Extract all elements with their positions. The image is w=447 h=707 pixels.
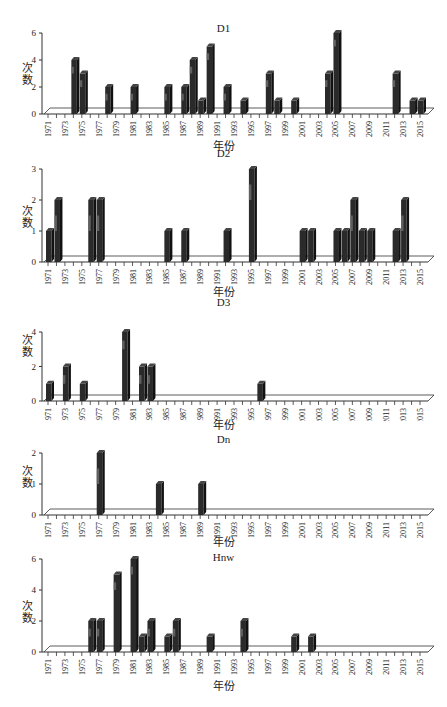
y-tick-label: 1 bbox=[32, 226, 37, 236]
y-tick-label: 0 bbox=[32, 109, 37, 119]
bar bbox=[266, 71, 274, 115]
x-tick-label: 1983 bbox=[145, 121, 154, 137]
bar bbox=[333, 30, 341, 114]
x-tick-label: 1979 bbox=[112, 121, 121, 137]
x-tick-label: 1979 bbox=[112, 659, 121, 675]
bar bbox=[173, 618, 181, 652]
x-tick-label: 2011 bbox=[382, 659, 391, 675]
bar-chart-hnw: 0246197119731975197719791981198319851987… bbox=[0, 545, 447, 695]
bar bbox=[164, 228, 172, 262]
x-tick-label: 1985 bbox=[162, 121, 171, 137]
y-tick-label: 0 bbox=[32, 647, 37, 657]
bar bbox=[139, 634, 147, 653]
y-tick-label: 2 bbox=[32, 616, 37, 626]
bar bbox=[46, 228, 54, 262]
bar bbox=[224, 84, 232, 114]
x-tick-label: 1973 bbox=[61, 121, 70, 137]
chart-panel-d1: D1 次数 0246197119731975197719791981198319… bbox=[0, 0, 447, 145]
x-tick-label: 1985 bbox=[162, 659, 171, 675]
x-tick-label: 1971 bbox=[44, 659, 53, 675]
x-tick-label: 1997 bbox=[264, 659, 273, 675]
chart-panel-dn: Dn 次数 0121971197319751977197919811983198… bbox=[0, 430, 447, 550]
x-tick-label: 2005 bbox=[331, 121, 340, 137]
bar bbox=[257, 381, 265, 401]
y-tick-label: 0 bbox=[32, 510, 37, 520]
x-tick-label: 1981 bbox=[129, 659, 138, 675]
x-tick-label: 2003 bbox=[315, 659, 324, 675]
bar bbox=[249, 166, 257, 262]
bar bbox=[198, 481, 206, 515]
bar bbox=[393, 228, 401, 262]
bar bbox=[207, 44, 215, 115]
bar bbox=[291, 634, 299, 653]
bar bbox=[181, 228, 189, 262]
bar-chart-d1: 0246197119731975197719791981198319851987… bbox=[0, 0, 447, 140]
bar bbox=[97, 618, 105, 652]
x-tick-label: 2007 bbox=[348, 659, 357, 675]
x-tick-label: 1975 bbox=[78, 121, 87, 137]
x-tick-label: 1987 bbox=[179, 121, 188, 137]
bar bbox=[342, 228, 350, 262]
x-tick-label: 1983 bbox=[145, 659, 154, 675]
x-tick-label: 2009 bbox=[365, 121, 374, 137]
bar bbox=[291, 98, 299, 115]
y-tick-label: 4 bbox=[32, 55, 37, 65]
y-tick-label: 1 bbox=[32, 479, 37, 489]
bar bbox=[207, 634, 215, 653]
x-tick-label: 1975 bbox=[78, 659, 87, 675]
floor-plane bbox=[44, 108, 434, 114]
bar bbox=[401, 197, 409, 262]
bar bbox=[274, 98, 282, 115]
bar bbox=[350, 197, 358, 262]
bar bbox=[97, 450, 105, 515]
bar bbox=[240, 618, 248, 652]
chart-panel-d2: D2 次数 0123197119731975197719791981198319… bbox=[0, 145, 447, 285]
x-tick-label: 1991 bbox=[213, 121, 222, 137]
x-tick-label: 2009 bbox=[365, 659, 374, 675]
bar-chart-d2: 0123197119731975197719791981198319851987… bbox=[0, 145, 447, 285]
x-tick-label: 1999 bbox=[281, 121, 290, 137]
y-tick-label: 6 bbox=[32, 28, 37, 38]
x-tick-label: 2001 bbox=[298, 659, 307, 675]
x-tick-label: 1971 bbox=[44, 121, 53, 137]
bar bbox=[240, 98, 248, 115]
x-tick-label: 1977 bbox=[95, 121, 104, 137]
bar bbox=[80, 71, 88, 115]
bar bbox=[410, 98, 418, 115]
x-tick-label: 1993 bbox=[230, 121, 239, 137]
y-tick-label: 6 bbox=[32, 554, 37, 564]
bar bbox=[105, 84, 113, 114]
bar bbox=[164, 84, 172, 114]
bar bbox=[333, 228, 341, 262]
bar bbox=[54, 197, 62, 262]
bar-chart-dn: 0121971197319751977197919811983198519871… bbox=[0, 430, 447, 545]
bar bbox=[367, 228, 375, 262]
bar bbox=[131, 84, 139, 114]
x-tick-label: 2015 bbox=[416, 659, 425, 675]
x-tick-label: 1973 bbox=[61, 659, 70, 675]
bar bbox=[88, 618, 96, 652]
bar bbox=[131, 556, 139, 652]
x-tick-label: 2007 bbox=[348, 121, 357, 137]
x-tick-label: 1981 bbox=[129, 121, 138, 137]
x-tick-label: 2013 bbox=[399, 659, 408, 675]
y-tick-label: 2 bbox=[32, 448, 37, 458]
x-tick-label: 1977 bbox=[95, 659, 104, 675]
y-tick-label: 3 bbox=[32, 164, 37, 174]
x-tick-label: 1995 bbox=[247, 121, 256, 137]
bar bbox=[156, 481, 164, 515]
bar bbox=[300, 228, 308, 262]
bar bbox=[46, 381, 54, 401]
x-tick-label: 1999 bbox=[281, 659, 290, 675]
bar bbox=[114, 572, 122, 653]
bar bbox=[308, 228, 316, 262]
x-tick-label: 2001 bbox=[298, 121, 307, 137]
bar bbox=[190, 57, 198, 114]
x-tick-label: 1993 bbox=[230, 659, 239, 675]
bar bbox=[393, 71, 401, 115]
y-tick-label: 0 bbox=[32, 257, 37, 267]
x-tick-label: 1987 bbox=[179, 659, 188, 675]
bar bbox=[71, 57, 79, 114]
bar bbox=[359, 228, 367, 262]
bar bbox=[88, 197, 96, 262]
